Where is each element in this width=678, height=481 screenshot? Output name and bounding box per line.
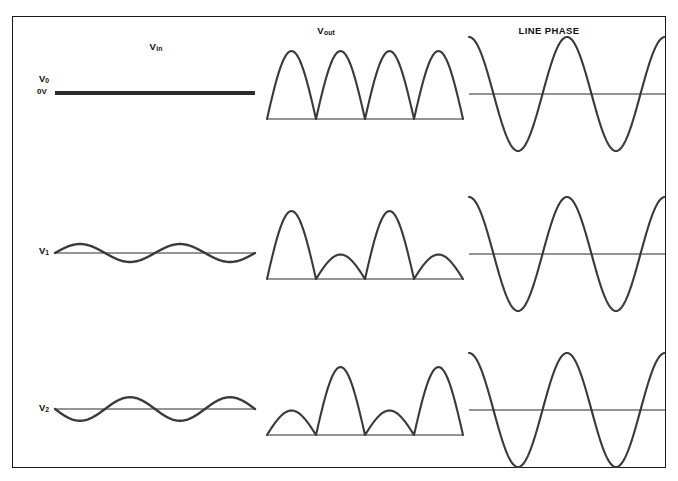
waveform-v0-vout [267,45,463,125]
row-label-v1: V1 [39,245,49,256]
row-label-v0: V0 [39,73,49,84]
rectified-output-trace [267,367,463,435]
panel-v1-vin [55,221,255,285]
panel-v2-vout [267,361,463,441]
row-label-v2-sub: 2 [45,406,49,413]
row-label-v1-sub: 1 [45,249,49,256]
column-header-vin-sub: in [156,45,162,52]
column-header-vin: Vin [150,41,163,52]
waveform-v0-line_phase [469,33,665,155]
figure-border: Vin Vout LINE PHASE V0 0V V1 V2 [12,16,666,468]
waveform-v0-vin [55,61,255,125]
column-header-vout-main: V [317,25,324,36]
waveform-v1-line_phase [469,193,665,315]
rectified-output-trace [267,51,463,119]
panel-v0-line-phase [469,33,665,155]
rectified-output-trace [267,211,463,279]
panel-v2-line-phase [469,349,665,471]
row-label-v2: V2 [39,402,49,413]
waveform-v2-vin [55,377,255,441]
waveform-v1-vin [55,221,255,285]
panel-v1-line-phase [469,193,665,315]
column-header-vout-sub: out [324,29,335,36]
column-header-vout: Vout [317,25,334,36]
column-header-vin-main: V [150,41,157,52]
panel-v0-vout [267,45,463,125]
waveform-v1-vout [267,205,463,285]
waveform-v2-vout [267,361,463,441]
zero-volt-label: 0V [37,87,47,96]
panel-v2-vin [55,377,255,441]
waveform-v2-line_phase [469,349,665,471]
panel-v1-vout [267,205,463,285]
panel-v0-vin [55,61,255,125]
row-label-v0-sub: 0 [45,77,49,84]
